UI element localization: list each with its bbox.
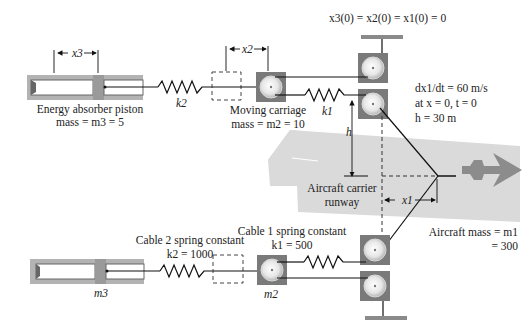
carriage-mass-label: mass = m2 = 10 [218, 118, 318, 131]
h-condition: h = 30 m [415, 112, 456, 125]
moving-carriage-bottom-pulley [257, 255, 287, 285]
aircraft-mass-value: = 300 [410, 240, 518, 253]
m2-bottom-label: m2 [264, 288, 278, 301]
cable2-k-label: k2 = 1000 [120, 248, 260, 261]
fixed-pulley-bottom-lower [360, 271, 390, 301]
spring-k2-top [158, 81, 212, 93]
piston-mass-top: mass = m3 = 5 [30, 116, 150, 129]
velocity-condition: dx1/dt = 60 m/s [415, 82, 488, 95]
runway-label-line1: Aircraft carrier [300, 182, 384, 195]
fixed-pulley-bottom-upper [360, 235, 390, 265]
k2-top-label: k2 [176, 97, 187, 110]
spring-k1-top [305, 89, 366, 101]
aircraft-mass-label: Aircraft mass = m1 [410, 226, 518, 239]
x3-dimension-label: x3 [72, 47, 83, 60]
top-anchor [361, 35, 403, 39]
x1-dimension-label: x1 [402, 194, 413, 207]
arresting-gear-diagram: x3(0) = x2(0) = x1(0) = 0 dx1/dt = 60 m/… [0, 0, 528, 328]
x2-dimension-label: x2 [242, 43, 253, 56]
carriage-label: Moving carriage [218, 104, 318, 117]
fixed-pulley-top-upper [358, 53, 388, 83]
spring-k2-bottom [160, 265, 213, 277]
bottom-anchor [365, 316, 407, 320]
runway-label-line2: runway [300, 196, 384, 209]
cable2-label: Cable 2 spring constant [120, 234, 260, 247]
initial-condition-label: x3(0) = x2(0) = x1(0) = 0 [329, 12, 446, 25]
time-condition: at x = 0, t = 0 [415, 97, 477, 110]
piston-label-top: Energy absorber piston [30, 103, 150, 116]
spring-k1-bottom [304, 256, 366, 268]
fixed-pulley-top-lower [358, 89, 388, 119]
k1-top-label: k1 [322, 105, 333, 118]
m3-bottom-label: m3 [94, 287, 108, 300]
h-dimension-label: h [346, 126, 352, 139]
